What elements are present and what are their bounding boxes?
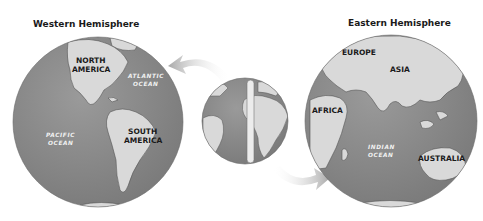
atlantic-ocean-label-line1: ATLANTIC [127,73,164,79]
eastern-hemisphere-title: Eastern Hemisphere [348,18,451,28]
indian-ocean-label-line1: INDIAN [368,144,395,150]
atlantic-ocean-label-line2: OCEAN [133,81,158,87]
pacific-ocean-label-line1: PACIFIC [46,132,75,138]
hemispheres-diagram: Western Hemisphere Eastern Hemisphere NO… [0,0,483,221]
pacific-ocean-label-line2: OCEAN [48,140,73,146]
europe-label: EUROPE [342,48,376,57]
africa-label: AFRICA [312,106,343,115]
south-america-label-line2: AMERICA [124,136,162,145]
indian-ocean-label-line2: OCEAN [368,152,393,158]
arrow-to-western-icon [168,55,230,82]
north-america-label-line1: NORTH [76,56,105,65]
split-globe [202,78,288,164]
western-hemisphere-globe: NORTH AMERICA SOUTH AMERICA ATLANTIC OCE… [13,36,183,212]
asia-label: ASIA [390,65,410,74]
south-america-label-line1: SOUTH [128,127,157,136]
australia-label: AUSTRALIA [418,154,465,163]
western-hemisphere-title: Western Hemisphere [33,19,139,29]
eastern-hemisphere-globe: EUROPE ASIA AFRICA AUSTRALIA INDIAN OCEA… [305,35,477,212]
north-america-label-line2: AMERICA [72,65,110,74]
